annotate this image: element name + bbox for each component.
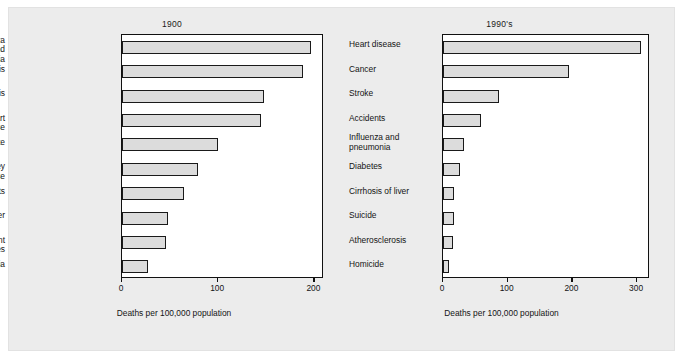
bar-row [122,138,322,151]
bar-row [122,90,322,103]
bar [122,163,198,176]
category-label: Tuberculosis [0,65,5,75]
bar [122,114,261,127]
bar-series-1900 [122,35,322,277]
x-axis-tick [636,278,637,282]
bar [443,114,481,127]
bar-series-1990s [443,35,648,277]
x-axis-tick-label: 100 [202,283,232,293]
bar [122,212,168,225]
bar [122,187,184,200]
category-label: Diabetes [349,162,382,172]
category-label: Cancer [349,65,376,75]
bar-row [443,260,648,273]
bar-row [122,212,322,225]
chart-1900: 1900 Influenza and pneumoniaTuberculosis… [9,8,343,350]
plot-area-1900 [121,34,323,278]
x-axis-tick [217,278,218,282]
bar [122,41,311,54]
x-axis-caption-1900: Deaths per 100,000 population [7,308,341,318]
bar-row [122,114,322,127]
bar-row [443,90,648,103]
bar [443,138,464,151]
category-label: Stroke [0,138,5,148]
bar [122,138,218,151]
category-label: Gastroenteritis [0,89,5,99]
bar [443,163,460,176]
bar-row [122,187,322,200]
x-axis-tick [442,278,443,282]
category-label: Homicide [349,260,384,270]
bar-row [443,114,648,127]
category-label: Accidents [349,114,385,124]
bar [443,90,499,103]
chart-title-1900: 1900 [5,19,339,29]
figure-panel: 1900 Influenza and pneumoniaTuberculosis… [8,7,675,351]
x-axis-tick [121,278,122,282]
category-label: Diphtheria [0,260,5,270]
bar-row [122,236,322,249]
x-axis-tick [313,278,314,282]
category-label: Suicide [349,211,376,221]
bar [443,187,454,200]
x-axis-tick-label: 200 [556,283,586,293]
x-axis-tick [507,278,508,282]
plot-area-1990s [442,34,649,278]
bar [443,65,569,78]
category-label: Heart disease [349,40,401,50]
x-axis-tick-label: 200 [298,283,328,293]
bar [443,212,454,225]
bar [122,260,148,273]
bar-row [122,163,322,176]
category-label: Cirrhosis of liver [349,187,409,197]
bar [443,41,641,54]
bar-row [443,212,648,225]
bar-row [443,65,648,78]
category-label: Influenza and pneumonia [0,36,5,65]
bar [443,236,453,249]
bar [122,236,166,249]
bar-row [443,187,648,200]
x-axis-tick-label: 0 [427,283,457,293]
x-axis-tick-label: 0 [106,283,136,293]
category-label: Influenza and pneumonia [349,133,399,152]
x-axis-tick-label: 300 [621,283,651,293]
category-label: Accidents [0,187,5,197]
category-label: Atherosclerosis [349,236,406,246]
bar-row [443,138,648,151]
bar-row [443,163,648,176]
bar [122,65,303,78]
bar [122,90,264,103]
x-axis-caption-1990s: Deaths per 100,000 population [335,308,668,318]
chart-title-1990s: 1990's [333,19,666,29]
category-label: Heart disease [0,114,5,133]
x-axis-tick-label: 100 [492,283,522,293]
category-label: Stroke [349,89,373,99]
bar-row [443,236,648,249]
category-label: Kidney disease [0,162,5,181]
category-label: Cancer [0,211,5,221]
bar-row [122,65,322,78]
chart-1990s: 1990's Heart diseaseCancerStrokeAccident… [343,8,676,350]
bar-row [122,260,322,273]
bar-row [122,41,322,54]
x-axis-tick [571,278,572,282]
category-label: Infant diseases [0,236,5,255]
bar-row [443,41,648,54]
bar [443,260,449,273]
